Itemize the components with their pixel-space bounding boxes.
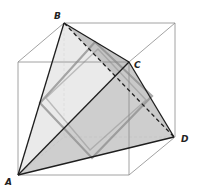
tetrahedron-cube-diagram: A B C D: [0, 0, 200, 192]
label-d: D: [181, 134, 189, 144]
label-c: C: [134, 60, 141, 70]
label-b: B: [54, 11, 61, 21]
label-a: A: [4, 177, 12, 187]
